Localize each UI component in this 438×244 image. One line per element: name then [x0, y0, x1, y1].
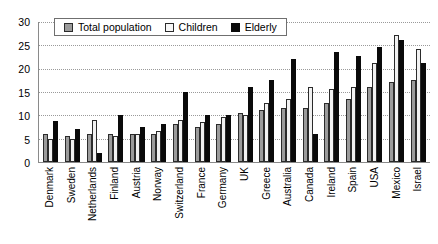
x-label-cell: Ireland: [321, 165, 343, 243]
bar-group: [191, 22, 213, 162]
bar-group: [407, 22, 429, 162]
x-label-cell: France: [191, 165, 213, 243]
bar-group: [386, 22, 408, 162]
x-tick-label: Norway: [153, 167, 163, 201]
legend-label: Elderly: [245, 22, 277, 33]
y-tick-label: 10: [18, 111, 30, 122]
x-tick-label: France: [197, 167, 207, 198]
x-tick-label: Sweden: [67, 167, 77, 203]
elderly-swatch: [231, 23, 240, 32]
x-label-cell: Austria: [126, 165, 148, 243]
bar-group: [170, 22, 192, 162]
x-label-cell: Finland: [104, 165, 126, 243]
bar-elderly: [269, 80, 274, 162]
bar-group: [213, 22, 235, 162]
bar-group: [278, 22, 300, 162]
bars-layer: [39, 22, 430, 162]
x-tick-label: Austria: [132, 167, 142, 198]
bar-chart: 302520151050 DenmarkSwedenNetherlandsFin…: [0, 0, 438, 244]
total-population-swatch: [64, 23, 73, 32]
bar-group: [364, 22, 386, 162]
bar-group: [256, 22, 278, 162]
children-swatch: [165, 23, 174, 32]
legend-item: Total population: [64, 22, 152, 33]
bar-group: [148, 22, 170, 162]
x-tick-label: USA: [370, 167, 380, 188]
bar-elderly: [140, 127, 145, 162]
bar-elderly: [226, 115, 231, 162]
x-label-cell: Germany: [212, 165, 234, 243]
legend-item: Elderly: [231, 22, 277, 33]
chart-legend: Total populationChildrenElderly: [54, 18, 287, 36]
bar-elderly: [205, 115, 210, 162]
bar-group: [234, 22, 256, 162]
y-tick-label: 25: [18, 40, 30, 51]
legend-label: Children: [179, 22, 218, 33]
bar-group: [299, 22, 321, 162]
bar-group: [321, 22, 343, 162]
bar-elderly: [421, 63, 426, 162]
bar-group: [83, 22, 105, 162]
bar-elderly: [248, 87, 253, 162]
x-tick-label: Ireland: [327, 167, 337, 198]
x-tick-label: Mexico: [392, 167, 402, 199]
bar-elderly: [53, 121, 58, 162]
bar-elderly: [399, 40, 404, 162]
x-tick-label: Switzerland: [175, 167, 185, 219]
bar-group: [40, 22, 62, 162]
bar-elderly: [291, 59, 296, 162]
bar-group: [343, 22, 365, 162]
x-tick-label: Spain: [348, 167, 358, 193]
x-label-cell: Switzerland: [169, 165, 191, 243]
x-tick-label: Germany: [218, 167, 228, 208]
y-tick-label: 0: [24, 158, 30, 169]
bar-elderly: [334, 52, 339, 162]
x-label-cell: Denmark: [39, 165, 61, 243]
bar-elderly: [356, 56, 361, 162]
x-label-cell: Australia: [277, 165, 299, 243]
bar-elderly: [118, 115, 123, 162]
x-tick-label: Greece: [262, 167, 272, 200]
x-tick-label: Australia: [283, 167, 293, 206]
bar-elderly: [97, 153, 102, 162]
x-tick-label: Denmark: [45, 167, 55, 208]
bar-group: [105, 22, 127, 162]
x-axis: DenmarkSwedenNetherlandsFinlandAustriaNo…: [38, 165, 430, 243]
bar-group: [126, 22, 148, 162]
bar-elderly: [313, 134, 318, 162]
legend-item: Children: [165, 22, 218, 33]
x-label-cell: UK: [234, 165, 256, 243]
x-tick-label: Canada: [305, 167, 315, 202]
bar-elderly: [75, 129, 80, 162]
x-tick-label: Finland: [110, 167, 120, 200]
y-tick-label: 15: [18, 87, 30, 98]
x-label-cell: USA: [364, 165, 386, 243]
legend-label: Total population: [78, 22, 152, 33]
bar-group: [62, 22, 84, 162]
y-tick-label: 30: [18, 17, 30, 28]
y-tick-label: 20: [18, 64, 30, 75]
x-tick-label: Netherlands: [88, 167, 98, 221]
bar-elderly: [183, 92, 188, 163]
x-label-cell: Israel: [407, 165, 429, 243]
x-label-cell: Mexico: [386, 165, 408, 243]
plot-area: [38, 22, 430, 163]
x-label-cell: Canada: [299, 165, 321, 243]
x-tick-label: Israel: [413, 167, 423, 191]
x-tick-label: UK: [240, 167, 250, 181]
y-axis: 302520151050: [0, 22, 34, 163]
x-label-cell: Sweden: [61, 165, 83, 243]
x-label-cell: Spain: [342, 165, 364, 243]
y-tick-label: 5: [24, 134, 30, 145]
x-label-cell: Greece: [256, 165, 278, 243]
x-label-cell: Netherlands: [82, 165, 104, 243]
bar-elderly: [377, 47, 382, 162]
x-label-cell: Norway: [147, 165, 169, 243]
bar-elderly: [161, 124, 166, 162]
